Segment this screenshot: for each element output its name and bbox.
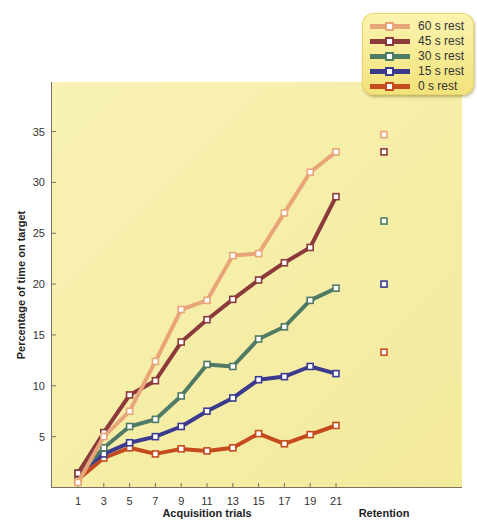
data-point [230,363,236,369]
data-point [256,431,262,437]
data-point [152,416,158,422]
data-point [204,317,210,323]
x-tick-label: 15 [252,495,264,507]
data-point [256,251,262,257]
data-point [333,371,339,377]
y-tick-label: 10 [33,380,45,392]
retention-point [381,349,387,355]
data-point [127,423,133,429]
legend-item-60s: 60 s rest [370,19,464,33]
x-tick-label: 17 [278,495,290,507]
retention-point [381,281,387,287]
data-point [307,297,313,303]
data-point [101,445,107,451]
data-point [178,393,184,399]
legend-swatch-60s [370,24,410,29]
legend-swatch-30s [370,54,410,59]
x-tick-label: 9 [178,495,184,507]
x-tick-label: 13 [227,495,239,507]
data-point [307,244,313,250]
data-point [127,440,133,446]
data-point [256,377,262,383]
legend-label: 30 s rest [418,49,464,63]
x-tick-label: 3 [101,495,107,507]
legend: 60 s rest 45 s rest 30 s rest 15 s rest … [362,13,474,95]
x-tick-label: 11 [201,495,212,507]
data-point [230,296,236,302]
data-point [178,307,184,313]
legend-item-15s: 15 s rest [370,64,464,78]
data-point [178,339,184,345]
data-point [101,434,107,440]
legend-item-0s: 0 s rest [370,79,457,93]
legend-swatch-45s [370,39,410,44]
data-point [281,324,287,330]
data-point [204,448,210,454]
x-tick-label: 5 [127,495,133,507]
data-point [307,169,313,175]
data-point [204,297,210,303]
data-point [281,260,287,266]
data-point [333,422,339,428]
data-point [152,434,158,440]
data-point [152,378,158,384]
data-point [75,479,81,485]
data-point [333,285,339,291]
data-point [281,441,287,447]
y-tick-label: 30 [33,176,45,188]
data-point [152,358,158,364]
retention-point [381,218,387,224]
data-point [204,408,210,414]
y-tick-label: 5 [39,431,45,443]
data-point [333,194,339,200]
x-tick-label: 1 [75,495,81,507]
legend-swatch-0s [370,84,410,89]
data-point [230,395,236,401]
data-point [281,210,287,216]
data-point [178,446,184,452]
data-point [281,374,287,380]
data-point [127,408,133,414]
legend-item-45s: 45 s rest [370,34,464,48]
data-point [127,392,133,398]
data-point [178,423,184,429]
x-tick-label: 7 [152,495,158,507]
data-point [307,363,313,369]
data-point [152,451,158,457]
data-point [230,253,236,259]
legend-label: 0 s rest [418,79,457,93]
retention-point [381,132,387,138]
legend-swatch-15s [370,69,410,74]
x-tick-label: 19 [304,495,316,507]
retention-point [381,149,387,155]
data-point [333,149,339,155]
y-tick-label: 35 [33,126,45,138]
y-tick-label: 15 [33,329,45,341]
x-tick-label: 21 [330,495,342,507]
retention-label: Retention [359,507,410,519]
legend-label: 45 s rest [418,34,464,48]
data-point [204,361,210,367]
y-tick-label: 25 [33,227,45,239]
y-axis-title: Percentage of time on target [15,210,27,359]
legend-label: 15 s rest [418,64,464,78]
data-point [307,432,313,438]
data-point [256,336,262,342]
x-axis-title: Acquisition trials [162,507,251,519]
legend-item-30s: 30 s rest [370,49,464,63]
legend-label: 60 s rest [418,19,464,33]
data-point [230,445,236,451]
y-tick-label: 20 [33,278,45,290]
data-point [256,277,262,283]
